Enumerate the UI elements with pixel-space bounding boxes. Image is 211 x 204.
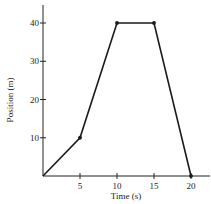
y-axis-title: Position (m) (5, 78, 15, 123)
data-point (189, 174, 193, 178)
x-tick-label: 10 (113, 181, 123, 191)
data-point (78, 136, 82, 140)
data-point (115, 21, 119, 25)
x-tick-label: 15 (150, 181, 160, 191)
position-time-chart: 10203040 5101520 Time (s) Position (m) (0, 0, 211, 204)
x-axis-title: Time (s) (111, 191, 141, 201)
position-line (43, 23, 191, 176)
data-point (152, 21, 156, 25)
x-tick-label: 20 (187, 181, 197, 191)
y-tick-label: 20 (30, 95, 40, 105)
data-point-markers (78, 21, 193, 178)
y-ticks: 10203040 (30, 18, 46, 143)
y-tick-label: 40 (30, 18, 40, 28)
y-tick-label: 30 (30, 56, 40, 66)
y-tick-label: 10 (30, 133, 40, 143)
x-tick-label: 5 (78, 181, 83, 191)
